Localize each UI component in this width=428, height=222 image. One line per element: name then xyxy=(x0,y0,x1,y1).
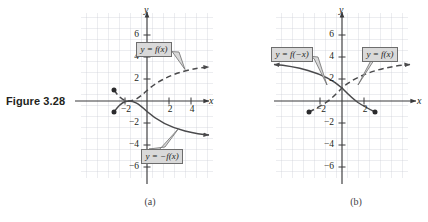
callout-a-neg-f-of-x: y = −f(x) xyxy=(141,149,183,164)
y-tick-label-a-neg6: −6 xyxy=(121,161,139,171)
y-tick-label-b-4: 4 xyxy=(320,51,334,61)
y-tick-label-b-6: 6 xyxy=(320,29,334,39)
endpoint-dot-b-left xyxy=(307,110,312,115)
x-axis-label-b: x xyxy=(417,95,421,106)
sub-caption-b: (b) xyxy=(336,196,376,207)
y-tick-label-b-2: 2 xyxy=(320,73,334,83)
y-axis-label-a: y xyxy=(144,4,148,15)
callout-a-f-of-x: y = f(x) xyxy=(136,42,172,57)
endpoint-dot-b-right xyxy=(373,110,378,115)
plot-b xyxy=(270,6,420,188)
x-tick-label-b-neg2: −2 xyxy=(312,104,330,114)
x-tick-label-a-neg2: −2 xyxy=(117,104,135,114)
y-tick-label-a-neg4: −4 xyxy=(121,139,139,149)
y-tick-label-b-neg6: −6 xyxy=(316,161,334,171)
panel-b: y x 6 4 2 −2 −4 −6 −2 2 y = f(−x) y = f(… xyxy=(214,0,428,222)
y-tick-label-a-6: 6 xyxy=(125,29,139,39)
callout-b-f-of-neg-x: y = f(−x) xyxy=(271,47,313,62)
x-tick-label-a-2: 2 xyxy=(163,104,177,114)
panel-a: y x 6 4 2 −2 −4 −6 −2 2 4 y = f(x) y = −… xyxy=(0,0,214,222)
y-tick-label-a-neg2: −2 xyxy=(121,117,139,127)
y-axis-label-b: y xyxy=(339,4,343,15)
x-axis-label-a: x xyxy=(209,95,213,106)
figure-3-28: Figure 3.28 xyxy=(0,0,428,222)
x-tick-label-b-2: 2 xyxy=(358,104,372,114)
y-tick-label-b-neg2: −2 xyxy=(316,117,334,127)
endpoint-dot-a-upper xyxy=(112,88,117,93)
callout-b-f-of-x: y = f(x) xyxy=(362,47,398,62)
x-tick-label-a-4: 4 xyxy=(185,104,199,114)
sub-caption-a: (a) xyxy=(130,196,170,207)
y-tick-label-a-2: 2 xyxy=(125,73,139,83)
endpoint-dot-a-lower xyxy=(112,110,117,115)
y-tick-label-b-neg4: −4 xyxy=(316,139,334,149)
